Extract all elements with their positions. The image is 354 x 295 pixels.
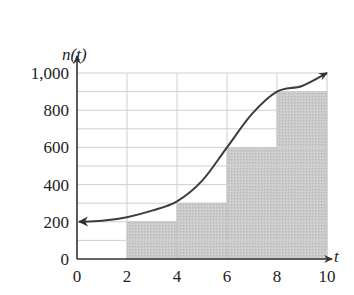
- y-tick-label: 0: [61, 250, 70, 269]
- x-tick-label: 6: [223, 267, 232, 286]
- bar: [177, 203, 227, 259]
- y-axis-label: n(t): [62, 45, 87, 64]
- y-tick-label: 200: [44, 213, 70, 232]
- x-tick-label: 4: [173, 267, 182, 286]
- bar: [277, 92, 327, 259]
- x-axis-label: t: [334, 247, 340, 266]
- y-tick-label: 600: [44, 138, 70, 157]
- y-tick-label: 1,000: [31, 64, 69, 83]
- x-tick-label: 10: [319, 267, 336, 286]
- x-tick-label: 0: [73, 267, 82, 286]
- x-tick-label: 2: [123, 267, 132, 286]
- y-tick-label: 800: [44, 101, 70, 120]
- chart: 024681002004006008001,000 n(t) t: [0, 0, 354, 295]
- x-tick-label: 8: [273, 267, 282, 286]
- y-tick-label: 400: [44, 176, 70, 195]
